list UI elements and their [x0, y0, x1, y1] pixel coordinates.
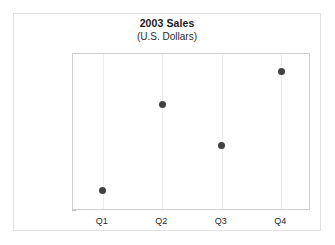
data-points-layer [73, 54, 309, 209]
chart-figure: 2003 Sales (U.S. Dollars) 250,000225,000… [0, 0, 335, 245]
x-axis-tick-label: Q2 [141, 216, 181, 227]
x-axis-tick-label: Q4 [260, 216, 300, 227]
plot-area [72, 53, 310, 210]
data-point [218, 142, 225, 149]
y-axis: 250,000225,000200,000175,000150,000125,0… [0, 0, 72, 245]
x-axis: Q1Q2Q3Q4 [0, 210, 335, 232]
data-point [278, 68, 285, 75]
x-axis-tick-label: Q3 [201, 216, 241, 227]
x-axis-tick-label: Q1 [82, 216, 122, 227]
data-point [159, 101, 166, 108]
data-point [99, 187, 106, 194]
